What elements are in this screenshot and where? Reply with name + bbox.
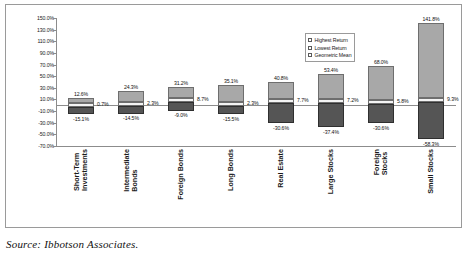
bar-group: 40.8%-30.6%7.7% bbox=[268, 18, 294, 146]
x-axis-category-labels: Short-TermInvestmentsIntermediateBondsFo… bbox=[56, 149, 456, 227]
bar-label-highest-return: 68.0% bbox=[374, 59, 388, 65]
bar-segment-lowest-return bbox=[318, 103, 344, 127]
bar-label-lowest-return: -14.5% bbox=[123, 115, 139, 121]
bar-label-geometric-mean: 8.7% bbox=[197, 96, 208, 102]
x-axis-line bbox=[56, 146, 456, 147]
bar-segment-highest-return bbox=[218, 85, 244, 102]
bar-label-geometric-mean: 2.3% bbox=[247, 100, 258, 106]
y-axis-tick-label: -30.0% bbox=[38, 120, 54, 126]
x-axis-category-label-line: Foreign Bonds bbox=[177, 149, 185, 200]
bar-segment-lowest-return bbox=[218, 106, 244, 114]
bar-label-geometric-mean: 0.7% bbox=[97, 101, 108, 107]
chart-page: 150.0%130.0%110.0%90.0%70.0%50.0%30.0%10… bbox=[0, 0, 467, 260]
y-axis-tick-label: 110.0% bbox=[37, 38, 54, 44]
x-axis-category-label-line: Small Stocks bbox=[427, 149, 435, 194]
legend-item-mean[interactable]: Geometric Mean bbox=[308, 52, 351, 59]
y-axis-tick-label: 10.0% bbox=[40, 96, 54, 102]
x-axis-category-label-line: Large Stocks bbox=[327, 149, 335, 194]
bar-series-group: 12.6%-15.1%0.7%24.3%-14.5%2.3%31.2%-9.0%… bbox=[56, 18, 456, 146]
bar-group: 141.8%-58.3%9.3% bbox=[418, 18, 444, 146]
x-axis-category-label-line: Bonds bbox=[131, 149, 139, 192]
y-axis-tick-label: 90.0% bbox=[40, 50, 54, 56]
bar-label-lowest-return: -58.3% bbox=[423, 141, 439, 147]
y-axis-tick-label: 50.0% bbox=[40, 73, 54, 79]
legend-swatch-lowest-icon bbox=[308, 46, 312, 50]
bar-segment-highest-return bbox=[318, 74, 344, 99]
bar-segment-highest-return bbox=[418, 23, 444, 98]
bar-segment-lowest-return bbox=[168, 102, 194, 110]
bar-label-lowest-return: -15.1% bbox=[73, 116, 89, 122]
y-axis-tick-label: 70.0% bbox=[40, 62, 54, 68]
bar-segment-highest-return bbox=[168, 87, 194, 98]
x-axis-category-label: Real Estate bbox=[277, 149, 285, 188]
bar-label-geometric-mean: 7.7% bbox=[297, 97, 308, 103]
x-axis-category-label: Long Bonds bbox=[227, 149, 235, 191]
y-axis-tick-label: 30.0% bbox=[40, 85, 54, 91]
bar-label-highest-return: 24.3% bbox=[124, 84, 138, 90]
bar-label-geometric-mean: 9.3% bbox=[447, 96, 458, 102]
bar-label-highest-return: 141.8% bbox=[423, 16, 440, 22]
legend-swatch-highest-icon bbox=[308, 38, 312, 42]
bar-label-highest-return: 12.6% bbox=[74, 91, 88, 97]
bar-group: 35.1%-15.5%2.3% bbox=[218, 18, 244, 146]
x-axis-category-label: Large Stocks bbox=[327, 149, 335, 194]
bar-label-highest-return: 53.4% bbox=[324, 67, 338, 73]
bar-label-lowest-return: -9.0% bbox=[174, 112, 187, 118]
bar-label-lowest-return: -30.6% bbox=[273, 125, 289, 131]
x-axis-category-label: ForeignStocks bbox=[373, 149, 389, 175]
y-axis-tick-label: -50.0% bbox=[38, 131, 54, 137]
bar-group: 31.2%-9.0%8.7% bbox=[168, 18, 194, 146]
bar-group: 24.3%-14.5%2.3% bbox=[118, 18, 144, 146]
x-axis-category-label: Short-TermInvestments bbox=[73, 149, 89, 191]
x-axis-category-label-line: Long Bonds bbox=[227, 149, 235, 191]
bar-segment-lowest-return bbox=[418, 102, 444, 139]
legend-label-mean: Geometric Mean bbox=[315, 52, 352, 58]
bar-segment-lowest-return bbox=[118, 106, 144, 114]
y-axis-tick-label: 150.0% bbox=[37, 15, 54, 21]
legend-label-highest: Highest Return bbox=[315, 37, 348, 43]
legend-item-highest[interactable]: Highest Return bbox=[308, 37, 351, 44]
bar-label-highest-return: 40.8% bbox=[274, 75, 288, 81]
source-note: Source: Ibbotson Associates. bbox=[6, 238, 138, 250]
bar-label-geometric-mean: 5.8% bbox=[397, 98, 408, 104]
bar-segment-lowest-return bbox=[368, 104, 394, 123]
x-axis-category-label-line: Stocks bbox=[381, 149, 389, 175]
bar-label-lowest-return: -37.4% bbox=[323, 129, 339, 135]
bar-label-highest-return: 31.2% bbox=[174, 80, 188, 86]
bar-segment-highest-return bbox=[118, 91, 144, 102]
y-axis-tick-label: 130.0% bbox=[37, 27, 54, 33]
legend-label-lowest: Lowest Return bbox=[315, 45, 347, 51]
bar-segment-lowest-return bbox=[268, 103, 294, 123]
x-axis-category-label-line: Real Estate bbox=[277, 149, 285, 188]
bar-label-lowest-return: -15.5% bbox=[223, 116, 239, 122]
chart-plot-frame: 150.0%130.0%110.0%90.0%70.0%50.0%30.0%10… bbox=[5, 4, 462, 228]
bar-label-geometric-mean: 7.2% bbox=[347, 97, 358, 103]
bar-group: 68.0%-30.6%5.8% bbox=[368, 18, 394, 146]
bar-segment-highest-return bbox=[368, 66, 394, 100]
bar-segment-highest-return bbox=[268, 82, 294, 99]
x-axis-category-label: Foreign Bonds bbox=[177, 149, 185, 200]
x-axis-category-label-line: Investments bbox=[81, 149, 89, 191]
chart-legend: Highest ReturnLowest ReturnGeometric Mea… bbox=[305, 33, 355, 62]
bar-label-highest-return: 35.1% bbox=[224, 78, 238, 84]
x-axis-category-label: Small Stocks bbox=[427, 149, 435, 194]
bar-label-geometric-mean: 2.3% bbox=[147, 100, 158, 106]
bar-segment-lowest-return bbox=[68, 107, 94, 114]
bar-group: 12.6%-15.1%0.7% bbox=[68, 18, 94, 146]
legend-swatch-mean-icon bbox=[308, 53, 312, 57]
x-axis-category-label: IntermediateBonds bbox=[123, 149, 139, 192]
bar-label-lowest-return: -30.6% bbox=[373, 125, 389, 131]
x-axis-category-8: Small Stocks bbox=[391, 149, 467, 227]
legend-item-lowest[interactable]: Lowest Return bbox=[308, 44, 351, 51]
y-axis-tick-label: -10.0% bbox=[38, 108, 54, 114]
